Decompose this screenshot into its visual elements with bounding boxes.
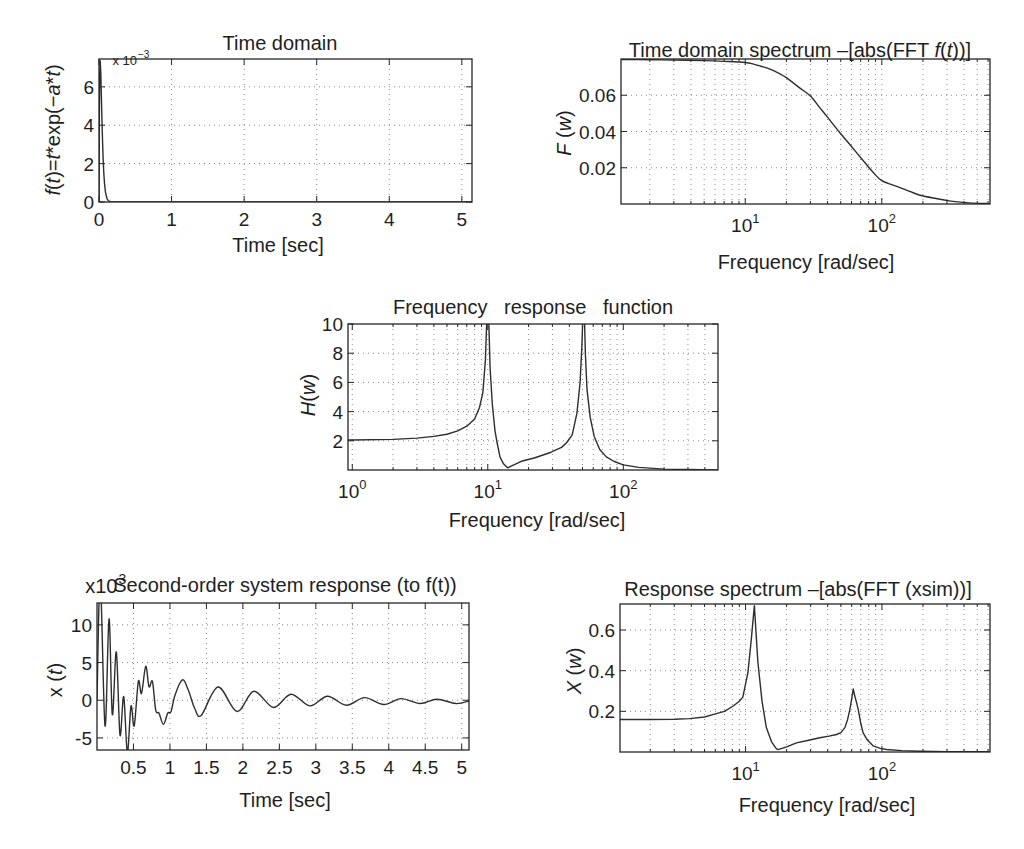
- label-segment: X: [563, 681, 585, 694]
- label-segment: w: [553, 117, 575, 131]
- x-axis-label-time-domain-spectrum: Frequency [rad/sec]: [718, 252, 895, 272]
- label-segment: x (: [44, 675, 66, 697]
- label-segment: w: [563, 654, 585, 668]
- label-segment: t: [44, 669, 66, 675]
- y-tick-label: -5: [75, 728, 92, 749]
- chart-title-frequency-response: Frequency response function: [393, 297, 673, 317]
- label-segment: t: [42, 71, 64, 77]
- y-tick-label: 4: [332, 402, 343, 423]
- label-segment: ))]: [952, 39, 971, 61]
- label-segment: ): [42, 64, 64, 71]
- label-segment: (: [940, 39, 947, 61]
- label-segment: f: [42, 190, 64, 196]
- label-segment: t: [42, 178, 64, 184]
- x-tick-label: 2: [239, 209, 250, 230]
- x-tick-label: 101: [474, 477, 502, 502]
- label-segment: )=: [42, 159, 64, 177]
- y-axis-label-time-domain-spectrum: F (w): [554, 110, 574, 156]
- x-axis-label-frequency-response: Frequency [rad/sec]: [449, 510, 626, 530]
- y-axis-label-time-domain: f(t)=t*exp(−a*t): [43, 64, 63, 195]
- label-segment: Time domain: [223, 32, 338, 54]
- x-tick-label: 3: [311, 209, 322, 230]
- label-segment: F: [553, 144, 575, 156]
- label-segment: t: [42, 154, 64, 160]
- plot-area: [348, 324, 718, 470]
- axes-time-domain-spectrum: 1011020.020.040.06: [579, 59, 990, 236]
- x-tick-label: 1: [165, 757, 176, 778]
- axes-response-spectrum: 1011020.20.40.6: [589, 604, 990, 784]
- label-segment: ): [563, 648, 585, 655]
- chart-title-time-domain: Time domain: [223, 33, 338, 53]
- label-segment: Time domain spectrum –[abs(FFT: [629, 39, 935, 61]
- y-tick-label: 6: [83, 77, 94, 98]
- x-tick-label: 0.5: [120, 757, 146, 778]
- label-segment: H: [297, 402, 319, 416]
- label-segment: (: [42, 183, 64, 190]
- x-tick-label: 4.5: [412, 757, 438, 778]
- chart-title-response-spectrum: Response spectrum –[abs(FFT (xsim))]: [624, 579, 972, 599]
- x-tick-label: 5: [457, 209, 468, 230]
- label-segment: (: [553, 131, 575, 143]
- x-tick-label: 1.5: [193, 757, 219, 778]
- x-tick-label: 4: [384, 209, 395, 230]
- y-tick-label: 0.04: [579, 122, 616, 143]
- y-tick-label: 0.06: [579, 85, 616, 106]
- y-tick-label: 5: [81, 653, 92, 674]
- y-tick-label: 0: [83, 192, 94, 213]
- y-tick-label: 0.4: [589, 661, 616, 682]
- label-segment: *: [42, 77, 64, 85]
- y-tick-label: 4: [83, 115, 94, 136]
- x-tick-label: 101: [731, 759, 759, 784]
- y-tick-label: 6: [332, 372, 343, 393]
- x-tick-label: 102: [868, 759, 896, 784]
- y-tick-label: 2: [83, 154, 94, 175]
- y-axis-label-system-response: x (t): [45, 663, 65, 697]
- y-tick-label: 8: [332, 343, 343, 364]
- x-axis-label-system-response: Time [sec]: [239, 790, 331, 810]
- x-tick-label: 1: [166, 209, 177, 230]
- figure: 01234502461011020.020.040.06100101102246…: [0, 0, 1024, 849]
- label-segment: Second-order system response (to f(t)): [113, 574, 456, 596]
- label-segment: *exp(−: [42, 96, 64, 154]
- y-tick-label: 10: [71, 615, 92, 636]
- y-axis-label-response-spectrum: X (w): [564, 648, 584, 695]
- label-segment: Response spectrum –[abs(FFT (xsim))]: [624, 578, 972, 600]
- label-segment: Frequency response function: [393, 296, 673, 318]
- axes-layer: 01234502461011020.020.040.06100101102246…: [0, 0, 1024, 849]
- x-tick-label: 102: [609, 477, 637, 502]
- y-tick-label: 0.2: [589, 701, 615, 722]
- x-tick-label: 3: [311, 757, 322, 778]
- label-segment: (: [297, 395, 319, 402]
- plot-area: [620, 604, 990, 752]
- x-tick-label: 5: [456, 757, 467, 778]
- axes-frequency-response-function: 100101102246810: [322, 236, 718, 502]
- label-segment: (: [563, 669, 585, 681]
- label-segment: w: [297, 381, 319, 395]
- y-multiplier-exponent: −3: [138, 49, 149, 60]
- chart-title-time-domain-spectrum: Time domain spectrum –[abs(FFT f(t))]: [629, 40, 971, 60]
- y-tick-label: 0.6: [589, 620, 615, 641]
- plot-area: [99, 59, 472, 202]
- label-segment: ): [553, 110, 575, 117]
- x-tick-label: 0: [94, 209, 105, 230]
- x-tick-label: 100: [338, 477, 366, 502]
- y-multiplier-label: x 10−3: [98, 41, 149, 80]
- x-axis-label-response-spectrum: Frequency [rad/sec]: [739, 795, 916, 815]
- chart-title-system-response: Second-order system response (to f(t)): [113, 575, 456, 595]
- x-tick-label: 3.5: [339, 757, 365, 778]
- x-tick-label: 102: [868, 211, 896, 236]
- x-tick-label: 2.5: [266, 757, 292, 778]
- y-multiplier-base: x 10: [112, 53, 137, 68]
- label-segment: ): [44, 663, 66, 670]
- y-axis-label-frequency-response: H(w): [298, 374, 318, 416]
- y-tick-label: 0.02: [579, 158, 616, 179]
- x-axis-label-time-domain: Time [sec]: [232, 235, 324, 255]
- axes-time-domain: 0123450246: [83, 59, 472, 230]
- y-tick-label: 0: [81, 690, 92, 711]
- axes-second-order-system-response: 0.511.522.533.544.55-50510: [71, 580, 469, 778]
- x-tick-label: 101: [731, 211, 759, 236]
- y-tick-label: 2: [332, 431, 343, 452]
- x-tick-label: 2: [238, 757, 249, 778]
- label-segment: ): [297, 374, 319, 381]
- label-segment: a: [42, 84, 64, 95]
